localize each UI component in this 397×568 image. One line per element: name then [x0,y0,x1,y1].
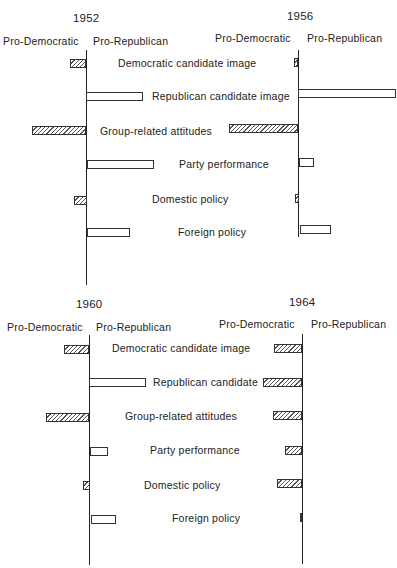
bar-1952-group [32,126,86,135]
bar-1952-rep-candidate [86,92,143,101]
bar-1964-domestic [277,479,302,488]
category-label: Republican candidate [153,376,258,388]
pro-dem-label-1964: Pro-Democratic [219,318,295,330]
bar-1956-group [229,124,298,133]
bar-1956-domestic [295,194,299,203]
category-label: Foreign policy [178,226,246,238]
bar-1964-rep-candidate [263,378,302,387]
year-1964: 1964 [289,296,315,308]
category-label: Domestic policy [144,479,221,491]
bar-1952-dem-candidate [70,59,86,68]
category-label: Party performance [179,158,269,170]
pro-rep-label-1964: Pro-Republican [311,318,386,330]
bar-1952-party [87,160,154,169]
bar-1960-rep-candidate [89,378,146,387]
bar-1956-party [299,158,314,167]
pro-dem-label-1952: Pro-Democratic [3,35,79,47]
bar-1956-dem-candidate [294,58,298,67]
year-1960: 1960 [76,298,102,310]
bar-1960-dem-candidate [64,345,89,354]
category-label: Democratic candidate image [112,342,250,354]
category-label: Republican candidate image [152,90,290,102]
pro-dem-label-1956: Pro-Democratic [215,32,291,44]
bar-1960-domestic [83,481,90,490]
year-1956: 1956 [287,10,313,22]
bar-1960-party [90,447,108,456]
category-label: Group-related attitudes [125,410,237,422]
category-label: Party performance [150,444,240,456]
bar-1960-group [46,413,89,422]
bar-1956-foreign [300,225,331,234]
category-label: Domestic policy [152,193,229,205]
bar-1964-group [273,411,302,420]
bar-1952-foreign [87,228,130,237]
category-label: Group-related attitudes [100,125,212,137]
bar-1964-dem-candidate [274,344,302,353]
pro-rep-label-1960: Pro-Republican [96,321,171,333]
bar-1952-domestic [74,196,87,205]
bar-1960-foreign [91,515,116,524]
category-label: Democratic candidate image [118,57,256,69]
pro-dem-label-1960: Pro-Democratic [7,321,83,333]
axis-1956 [298,50,299,237]
axis-1964 [302,334,303,564]
pro-rep-label-1956: Pro-Republican [307,32,382,44]
bar-1956-rep-candidate [298,89,396,98]
bar-1964-party [285,446,302,455]
bar-1964-foreign [300,513,302,522]
category-label: Foreign policy [172,512,240,524]
pro-rep-label-1952: Pro-Republican [93,35,168,47]
year-1952: 1952 [73,12,99,24]
